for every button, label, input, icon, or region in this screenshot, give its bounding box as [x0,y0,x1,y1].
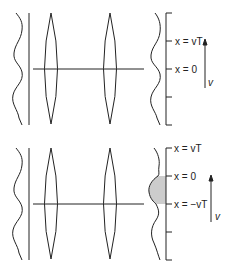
object-wave-profile [13,13,23,125]
object-wave-profile [13,148,23,260]
label-x-zero: x = 0 [174,171,196,182]
arrow-head-icon [203,39,207,45]
label-x-zero: x = 0 [175,64,197,75]
label-x-vT: x = vT [175,36,203,47]
image-wave-profile [151,13,161,125]
label-velocity: v [208,77,214,88]
label-velocity: v [215,211,221,222]
arrow-head-icon [209,175,213,181]
label-x-vT: x = vT [174,143,202,154]
label-x-neg-vT: x = −vT [174,199,207,210]
optics-diagram: x = vT x = 0 v x = vT x = 0 x = −vT v [0,0,229,275]
shaded-image-region [149,176,166,204]
